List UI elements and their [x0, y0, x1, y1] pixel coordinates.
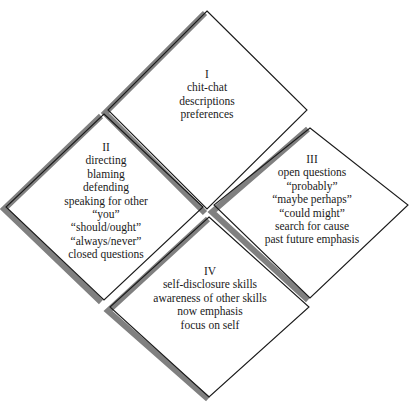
quadrant-1-shadow	[105, 13, 205, 213]
quadrant-2-shadow	[4, 116, 101, 302]
quadrant-3-outline	[214, 128, 408, 298]
quadrant-1-outline	[108, 11, 307, 209]
diamond-outline-group	[6, 11, 408, 397]
diagram-canvas: I chit-chat descriptions preferences II …	[0, 0, 414, 407]
quadrant-diamonds-graphic	[0, 0, 414, 407]
quadrant-4-outline	[110, 217, 309, 397]
quadrant-4-shadow	[108, 219, 208, 399]
quadrant-2-outline	[6, 114, 203, 300]
diamond-shadow-group	[4, 13, 308, 399]
quadrant-3-shadow	[212, 129, 308, 300]
